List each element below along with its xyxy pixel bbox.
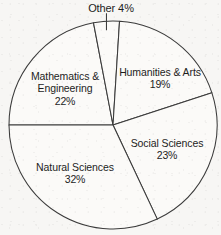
pie-chart-canvas	[0, 0, 221, 235]
slice-label-natural-sciences: Natural Sciences 32%	[22, 161, 128, 186]
slice-label-other: Other 4%	[56, 2, 166, 15]
slice-label-mathematics-engineering-line1: Mathematics &	[31, 70, 99, 82]
pie-slices-group	[9, 21, 217, 229]
pie-chart: Other 4% Humanities & Arts 19% Social Sc…	[0, 0, 221, 235]
slice-label-humanities-arts: Humanities & Arts 19%	[108, 66, 212, 91]
slice-value-natural-sciences: 32%	[22, 173, 128, 185]
slice-value-mathematics-engineering: 22%	[14, 95, 116, 107]
slice-label-mathematics-engineering-line2: Engineering	[14, 82, 116, 94]
slice-label-social-sciences-text: Social Sciences	[131, 137, 204, 149]
slice-label-mathematics-engineering: Mathematics & Engineering 22%	[14, 70, 116, 107]
slice-value-social-sciences: 23%	[118, 149, 216, 161]
slice-label-social-sciences: Social Sciences 23%	[118, 137, 216, 162]
slice-label-other-text: Other 4%	[88, 2, 134, 14]
slice-label-humanities-arts-text: Humanities & Arts	[119, 66, 201, 78]
slice-label-natural-sciences-text: Natural Sciences	[36, 161, 114, 173]
slice-value-humanities-arts: 19%	[108, 78, 212, 90]
